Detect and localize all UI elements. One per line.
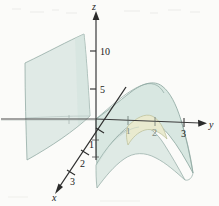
z-tick-label-10: 10 bbox=[100, 46, 110, 57]
z-axis-arrow bbox=[93, 11, 100, 20]
x-tick-label-3: 3 bbox=[70, 176, 75, 187]
x-tick-label-2: 2 bbox=[80, 158, 85, 169]
x-tick-label-1: 1 bbox=[89, 139, 94, 150]
y-tick-label-2: 2 bbox=[152, 127, 157, 138]
y-tick-label-1: 1 bbox=[126, 126, 131, 136]
x-axis-label: x bbox=[51, 192, 57, 203]
y-axis-label: y bbox=[208, 119, 214, 130]
y-axis-arrow bbox=[198, 120, 207, 127]
plot-canvas: z y x 10 5 1 2 3 1 2 3 bbox=[0, 0, 219, 206]
z-tick-label-5: 5 bbox=[100, 84, 105, 95]
surface-plot-figure: z y x 10 5 1 2 3 1 2 3 bbox=[0, 0, 219, 206]
y-tick-label-3: 3 bbox=[181, 128, 186, 139]
z-axis-label: z bbox=[91, 1, 96, 12]
left-panel-surface bbox=[25, 34, 90, 160]
saddle-surface bbox=[96, 83, 193, 188]
